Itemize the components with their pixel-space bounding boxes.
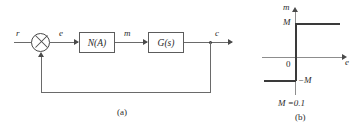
relay-lower-level-line: [264, 80, 296, 82]
output-signal-line: [184, 42, 232, 43]
signal-label-e: e: [59, 29, 63, 38]
relay-upper-level-line: [296, 23, 340, 25]
relay-parameter-note: M =0.1: [278, 99, 305, 108]
feedback-arrow-icon: [38, 52, 44, 57]
lower-level-label: −M: [298, 76, 312, 85]
feedback-line-down: [210, 42, 211, 92]
feedback-line-up: [41, 57, 42, 92]
signal-label-m: m: [124, 29, 131, 38]
block-nonlinearity: N(A): [79, 32, 115, 53]
panel-b-caption: (b): [295, 113, 306, 122]
upper-level-label: M: [283, 18, 291, 27]
origin-label: 0: [286, 60, 291, 69]
output-arrow-icon: [228, 39, 233, 45]
figure-container: r e N(A) m G(s) c (: [0, 0, 360, 128]
e-axis-line: [262, 57, 345, 58]
m-axis-label: m: [283, 3, 290, 12]
panel-a-caption: (a): [117, 108, 127, 117]
feedback-line-across: [41, 92, 211, 93]
signal-label-r: r: [16, 29, 20, 38]
block-nonlinearity-label: N(A): [88, 38, 106, 48]
block-plant-label: G(s): [158, 38, 175, 48]
signal-label-c: c: [215, 29, 219, 38]
block-plant: G(s): [148, 32, 184, 53]
summing-junction: [31, 33, 50, 52]
m-axis-arrow-icon: [292, 7, 298, 12]
e-axis-label: e: [345, 58, 349, 67]
relay-switching-line: [295, 23, 297, 81]
